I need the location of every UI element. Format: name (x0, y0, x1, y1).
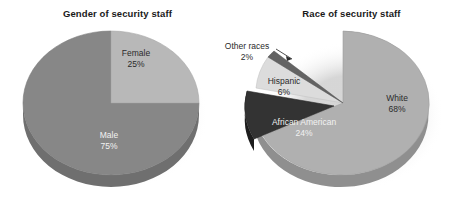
pie-charts-graphic (0, 0, 469, 202)
pie-race (245, 31, 444, 190)
figure-canvas: Gender of security staff Race of securit… (0, 0, 469, 202)
pie-gender (23, 31, 208, 190)
pie-gender-slice-female (111, 31, 199, 103)
